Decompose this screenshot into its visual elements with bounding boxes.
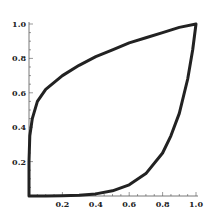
x-tick-label: 0.6 xyxy=(122,199,136,209)
tick-labels: 0.20.40.60.81.00.20.40.60.81.0 xyxy=(12,19,203,209)
y-tick-label: 0.2 xyxy=(12,157,26,167)
plot-area: 0.20.40.60.81.00.20.40.60.81.0 xyxy=(0,0,215,218)
y-tick-label: 0.4 xyxy=(12,122,26,132)
y-tick-label: 0.6 xyxy=(12,88,26,98)
y-tick-label: 1.0 xyxy=(12,19,26,29)
x-tick-label: 0.8 xyxy=(156,199,170,209)
x-tick-label: 0.2 xyxy=(55,199,69,209)
y-tick-label: 0.8 xyxy=(12,53,26,63)
x-tick-label: 0.4 xyxy=(89,199,103,209)
data-curve xyxy=(29,24,196,196)
x-tick-label: 1.0 xyxy=(189,199,203,209)
